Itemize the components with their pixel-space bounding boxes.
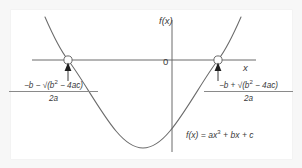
origin-label: 0 — [163, 57, 168, 67]
x-axis-label: x — [243, 63, 248, 73]
right-root-numerator: −b + √(b2 − 4ac) — [204, 81, 293, 91]
left-root-pointer-arrow-icon — [65, 63, 72, 82]
right-root-formula: −b + √(b2 − 4ac) 2a — [204, 81, 293, 103]
left-root-numerator-prefix: −b − √(b — [24, 81, 54, 90]
left-root-numerator-suffix: − 4ac) — [58, 81, 83, 90]
right-root-numerator-suffix: − 4ac) — [253, 81, 278, 90]
right-root-denominator-text: 2a — [244, 94, 253, 103]
function-equation-lhs: f(x) = ax — [186, 130, 217, 140]
function-equation-rhs: + bx + c — [221, 130, 254, 140]
figure-container: f(x) x 0 −b − √(b2 − 4ac) 2a −b + √(b2 −… — [0, 0, 302, 168]
function-equation: f(x) = ax3 + bx + c — [186, 131, 254, 140]
left-root-denominator-text: 2a — [49, 94, 58, 103]
right-root-numerator-prefix: −b + √(b — [219, 81, 249, 90]
left-root-formula: −b − √(b2 − 4ac) 2a — [9, 81, 98, 103]
left-root-denominator: 2a — [9, 92, 98, 103]
y-axis-label: f(x) — [159, 16, 173, 26]
right-root-pointer-arrow-icon — [215, 63, 222, 82]
left-root-numerator: −b − √(b2 − 4ac) — [9, 81, 98, 91]
right-root-denominator: 2a — [204, 92, 293, 103]
